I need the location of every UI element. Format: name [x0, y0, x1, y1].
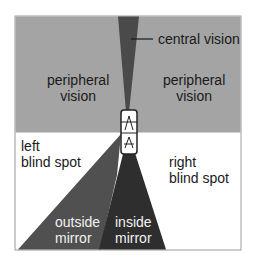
outside-mirror-label: outside mirror — [55, 214, 100, 246]
car-icon — [121, 110, 137, 154]
right-blind-spot-label: right blind spot — [169, 154, 229, 186]
left-blind-spot-label: left blind spot — [21, 138, 81, 170]
inside-mirror-label: inside mirror — [115, 214, 152, 246]
peripheral-vision-left-label: peripheral vision — [47, 72, 109, 104]
peripheral-vision-right-label: peripheral vision — [163, 72, 225, 104]
central-vision-label: central vision — [158, 31, 240, 47]
